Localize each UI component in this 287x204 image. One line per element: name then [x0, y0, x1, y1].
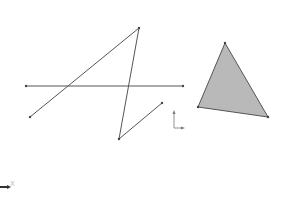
local-axes-icon	[173, 110, 186, 130]
filled-triangle[interactable]	[198, 43, 268, 117]
polyline-vertex[interactable]	[29, 116, 31, 118]
polyline-vertex[interactable]	[161, 102, 163, 104]
drawing-canvas[interactable]	[0, 0, 287, 204]
polyline[interactable]	[30, 28, 162, 139]
line-endpoint[interactable]	[182, 85, 184, 87]
polyline-vertex[interactable]	[138, 27, 140, 29]
triangle-vertex[interactable]	[224, 42, 226, 44]
line-endpoint[interactable]	[25, 85, 27, 87]
triangle-vertex[interactable]	[197, 106, 199, 108]
ucs-x-label: X	[10, 180, 15, 188]
triangle-vertex[interactable]	[267, 116, 269, 118]
polyline-vertex[interactable]	[118, 138, 120, 140]
